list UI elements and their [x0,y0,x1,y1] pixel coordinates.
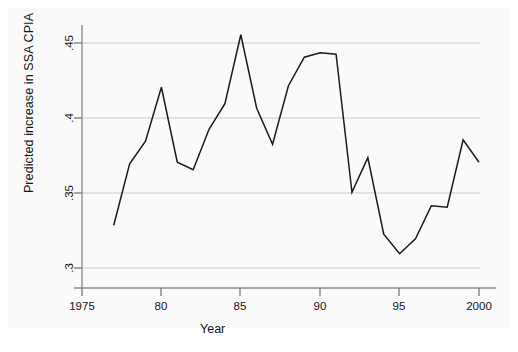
x-tick-label-1: 80 [141,300,181,312]
y-tick-label-1: .35 [63,178,75,208]
x-tick-marks [82,288,479,296]
gridlines [82,43,480,268]
axis-lines [74,25,496,288]
x-tick-label-5: 2000 [459,300,499,312]
x-tick-label-0: 1975 [62,300,102,312]
x-axis-title: Year [200,322,225,336]
y-axis-title: Predicted increase in SSA CPIA [22,0,36,218]
data-line-series-0 [114,35,479,254]
x-tick-label-2: 85 [220,300,260,312]
chart-figure: .3 .35 .4 .45 1975 80 85 90 95 2000 Pred… [0,0,518,352]
x-tick-label-4: 95 [379,300,419,312]
y-tick-label-3: .45 [63,28,75,58]
y-tick-marks [74,43,82,268]
x-tick-label-3: 90 [300,300,340,312]
y-tick-label-0: .3 [63,253,75,283]
y-tick-label-2: .4 [63,103,75,133]
